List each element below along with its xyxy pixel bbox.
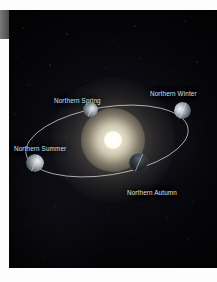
astronomy-figure: Northern Spring Northern Winter Northern… — [9, 10, 217, 268]
sun-core — [104, 131, 122, 149]
label-northern-winter: Northern Winter — [150, 91, 197, 97]
left-edge-strip — [0, 10, 9, 39]
earth-winter — [174, 102, 191, 119]
page-canvas: Northern Spring Northern Winter Northern… — [0, 0, 217, 282]
earth-autumn — [129, 153, 148, 172]
earth-winter-rim — [174, 102, 191, 119]
label-northern-spring: Northern Spring — [54, 98, 101, 104]
label-northern-summer: Northern Summer — [14, 146, 66, 152]
earth-summer — [26, 154, 44, 172]
label-northern-autumn: Northern Autumn — [127, 190, 177, 196]
earth-summer-rim — [26, 154, 44, 172]
earth-autumn-rim — [129, 153, 148, 172]
